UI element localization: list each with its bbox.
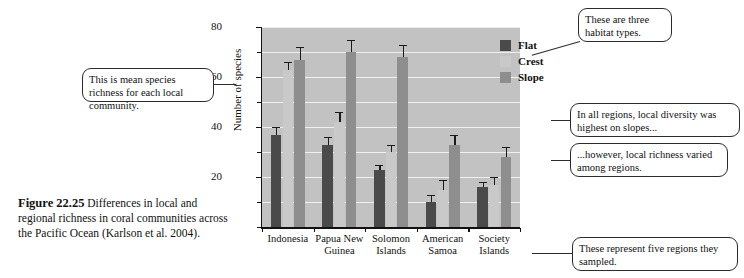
error-bar-cap — [439, 180, 447, 181]
x-tick — [262, 228, 263, 232]
error-bar-cap — [272, 127, 280, 128]
legend-item-slope: Slope — [500, 70, 562, 86]
error-bar — [454, 135, 455, 145]
bar-crest-2 — [386, 152, 397, 227]
callout-leader-mean — [214, 84, 236, 85]
y-tick — [256, 77, 261, 78]
y-tick-label: 80 — [200, 21, 222, 32]
y-tick — [256, 127, 261, 128]
bar-crest-0 — [283, 70, 294, 228]
legend-label-flat: Flat — [518, 38, 537, 52]
y-tick — [256, 27, 261, 28]
error-bar-cap — [387, 145, 395, 146]
bar-slope-4 — [501, 157, 512, 227]
callout-richness-varied: ...however, local richness varied among … — [570, 143, 728, 177]
error-bar — [506, 147, 507, 157]
error-bar-cap — [284, 62, 292, 63]
figure-number: Figure 22.25 — [18, 196, 84, 210]
y-axis-title: Number of species — [231, 20, 243, 160]
error-bar — [351, 40, 352, 53]
legend-label-slope: Slope — [518, 70, 544, 84]
error-bar — [403, 45, 404, 58]
x-tick — [365, 228, 366, 232]
y-tick — [257, 152, 261, 153]
bars-layer — [262, 27, 520, 227]
error-bar-cap — [375, 165, 383, 166]
chart-legend: FlatCrestSlope — [500, 38, 562, 86]
x-tick — [314, 228, 315, 232]
figure-caption: Figure 22.25 Differences in local and re… — [18, 196, 230, 241]
x-axis-category-labels: IndonesiaPapua NewGuineaSolomonIslandsAm… — [262, 233, 520, 267]
error-bar-cap — [479, 182, 487, 183]
error-bar — [443, 180, 444, 190]
bar-crest-3 — [437, 190, 448, 228]
callout-leader-regions — [532, 253, 574, 254]
x-tick — [520, 228, 521, 232]
error-bar — [300, 47, 301, 60]
y-tick — [257, 202, 261, 203]
bar-crest-1 — [334, 122, 345, 227]
x-label-society-islands: SocietyIslands — [462, 233, 526, 257]
callout-diversity-slopes: In all regions, local diversity was high… — [570, 103, 740, 137]
bar-slope-1 — [346, 52, 357, 227]
legend-swatch-crest — [500, 56, 511, 67]
legend-swatch-flat — [500, 40, 511, 51]
legend-label-crest: Crest — [518, 54, 543, 68]
error-bar-cap — [399, 45, 407, 46]
legend-item-flat: Flat — [500, 38, 562, 54]
bar-flat-1 — [322, 145, 333, 228]
y-tick-label: 20 — [200, 171, 222, 182]
error-bar — [339, 112, 340, 122]
legend-swatch-slope — [500, 72, 511, 83]
error-bar-cap — [427, 195, 435, 196]
bar-flat-3 — [426, 202, 437, 227]
y-tick-label: 40 — [200, 121, 222, 132]
x-tick — [468, 228, 469, 232]
x-tick — [417, 228, 418, 232]
bar-slope-0 — [294, 60, 305, 228]
legend-item-crest: Crest — [500, 54, 562, 70]
bar-slope-3 — [449, 145, 460, 228]
callout-mean-richness: This is mean species richness for each l… — [82, 68, 214, 102]
error-bar-cap — [450, 135, 458, 136]
y-tick — [256, 177, 261, 178]
bar-crest-4 — [489, 185, 500, 228]
error-bar-cap — [335, 112, 343, 113]
bar-flat-4 — [477, 187, 488, 227]
y-tick — [257, 102, 261, 103]
error-bar-cap — [324, 137, 332, 138]
error-bar-cap — [347, 40, 355, 41]
callout-habitat-types: These are three habitat types. — [578, 8, 672, 42]
figure-container: 20406080 Number of species IndonesiaPapu… — [0, 0, 744, 278]
callout-five-regions: These represent five regions they sample… — [572, 237, 738, 271]
bar-slope-2 — [397, 57, 408, 227]
bar-flat-2 — [374, 170, 385, 228]
y-tick — [257, 52, 261, 53]
bar-flat-0 — [271, 135, 282, 228]
error-bar-cap — [296, 47, 304, 48]
bar-chart: 20406080 Number of species IndonesiaPapu… — [228, 14, 520, 230]
x-axis-line — [261, 227, 520, 229]
error-bar-cap — [490, 177, 498, 178]
error-bar-cap — [502, 147, 510, 148]
